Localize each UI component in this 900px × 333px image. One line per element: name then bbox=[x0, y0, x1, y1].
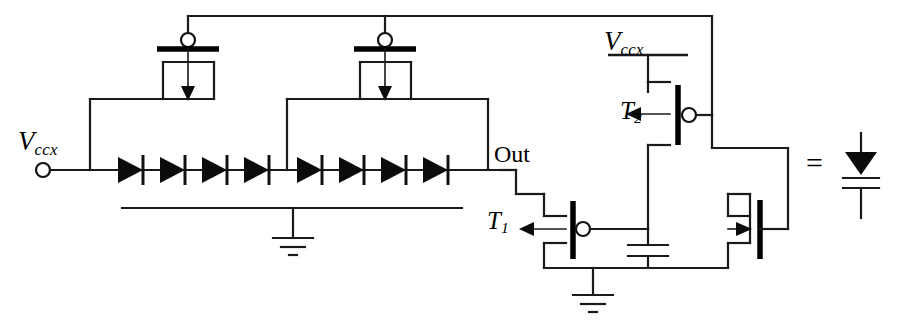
label-vccx-right: Vccx bbox=[604, 28, 644, 58]
diode-5-triangle bbox=[297, 157, 322, 183]
pmos-right-gate-bubble bbox=[378, 33, 392, 47]
label-t1: T1 bbox=[487, 208, 509, 236]
ground-left bbox=[122, 208, 462, 255]
diode-7-triangle bbox=[381, 157, 406, 183]
label-vccx-right-base: V bbox=[604, 26, 621, 56]
diode-2-triangle bbox=[160, 157, 185, 183]
equivalence-legend bbox=[843, 133, 879, 218]
diode-3-triangle bbox=[202, 157, 227, 183]
t1-body-arrow bbox=[519, 222, 534, 236]
label-vccx-left-base: V bbox=[18, 126, 35, 156]
legend-diode-triangle bbox=[845, 152, 877, 175]
label-equals: = bbox=[806, 148, 823, 178]
t2-gate-bubble bbox=[682, 108, 696, 122]
label-out: Out bbox=[494, 142, 530, 166]
label-vccx-right-sub: ccx bbox=[621, 40, 644, 59]
gate-capacitor bbox=[628, 229, 668, 268]
circuit-diagram-canvas: Vccx Vccx Out T1 T2 = bbox=[0, 0, 900, 333]
diode-6-triangle bbox=[339, 157, 364, 183]
label-vccx-left-sub: ccx bbox=[35, 140, 58, 159]
diode-8-triangle bbox=[423, 157, 448, 183]
t1-gate-bubble bbox=[576, 222, 590, 236]
vccx-rail-right bbox=[608, 55, 688, 82]
diode-1-triangle bbox=[118, 157, 143, 183]
out-node bbox=[500, 170, 544, 194]
label-t2-sub: 2 bbox=[634, 109, 642, 126]
series-diode-chain bbox=[118, 155, 500, 185]
label-t2: T2 bbox=[620, 98, 642, 126]
diode-4-triangle bbox=[244, 157, 269, 183]
label-vccx-left: Vccx bbox=[18, 128, 58, 158]
pmos-left-gate-bubble bbox=[181, 33, 195, 47]
label-t2-base: T bbox=[620, 97, 634, 124]
pmos-right bbox=[287, 33, 488, 170]
label-t1-sub: 1 bbox=[501, 219, 509, 236]
pmos-left bbox=[90, 33, 219, 170]
ground-right bbox=[544, 268, 728, 312]
schematic-svg bbox=[0, 0, 900, 333]
diode-connected-nmos bbox=[712, 148, 788, 268]
vccx-terminal-circle bbox=[36, 163, 50, 177]
label-t1-base: T bbox=[487, 207, 501, 234]
